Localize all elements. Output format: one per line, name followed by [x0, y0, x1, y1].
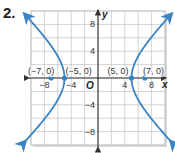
x-tick-label: −8 [39, 80, 49, 90]
origin-label: O [86, 80, 94, 91]
y-tick-label: 4 [90, 46, 95, 56]
y-tick-label: −4 [85, 100, 95, 110]
point-label: (−7, 0) [28, 66, 54, 76]
point-marker [129, 75, 134, 80]
point-label: (−5, 0) [66, 66, 92, 76]
x-tick-label: 4 [122, 80, 127, 90]
x-tick-label: −4 [66, 80, 76, 90]
point-marker [49, 75, 54, 80]
point-label: (5, 0) [107, 66, 128, 76]
point-marker [142, 75, 147, 80]
y-tick-label: −8 [85, 127, 95, 137]
point-label: (7, 0) [143, 66, 164, 76]
x-axis-label: x [161, 79, 168, 90]
x-tick-label: 8 [149, 80, 154, 90]
y-tick-label: 8 [90, 19, 95, 29]
y-axis-label: y [101, 9, 108, 20]
point-marker [62, 75, 67, 80]
hyperbola-chart: −8−44884−4−8xyO(−7, 0)(−5, 0)(5, 0)(7, 0… [0, 0, 175, 153]
